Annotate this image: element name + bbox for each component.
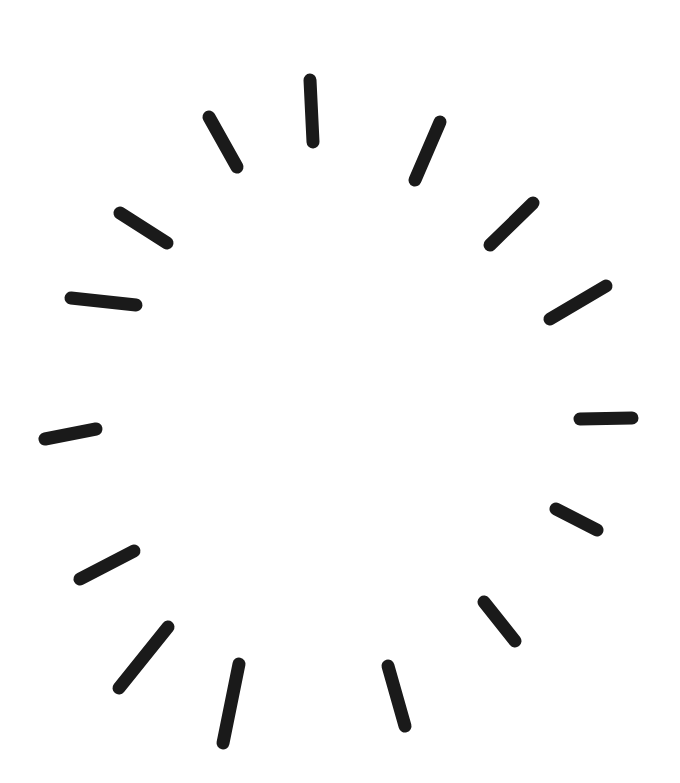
burst-dash-stroke bbox=[209, 117, 237, 167]
burst-dash-stroke bbox=[490, 203, 533, 245]
burst-dash-stroke bbox=[120, 213, 167, 243]
burst-dash-stroke bbox=[484, 602, 515, 641]
burst-dash-stroke bbox=[580, 418, 632, 419]
radial-burst-illustration bbox=[0, 0, 680, 783]
burst-strokes bbox=[45, 80, 632, 743]
burst-dash-stroke bbox=[80, 551, 134, 579]
burst-dash-stroke bbox=[415, 122, 440, 180]
burst-dash-stroke bbox=[550, 286, 606, 319]
burst-dash-stroke bbox=[556, 509, 597, 530]
burst-dash-stroke bbox=[45, 429, 96, 439]
burst-dash-stroke bbox=[71, 298, 136, 305]
burst-dash-stroke bbox=[388, 666, 405, 726]
burst-dash-stroke bbox=[223, 664, 239, 743]
burst-dash-stroke bbox=[119, 627, 168, 688]
burst-dash-stroke bbox=[310, 80, 313, 142]
